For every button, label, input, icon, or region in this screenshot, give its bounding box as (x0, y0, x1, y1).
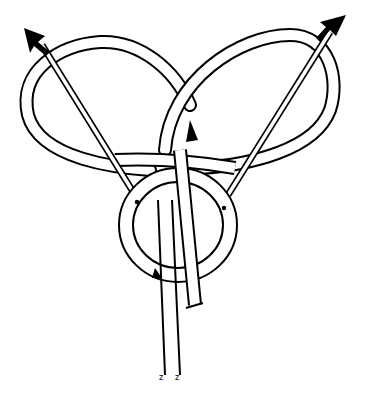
arrow-up-right-icon (316, 15, 346, 42)
svg-text:z: z (175, 373, 179, 382)
standing-parts: z z (158, 200, 180, 382)
svg-text:z: z (159, 373, 163, 382)
knot-drawing: z z (0, 0, 365, 402)
knot-diagram: z z (0, 0, 365, 402)
arrow-up-left-icon (24, 28, 50, 56)
left-pull-line (24, 28, 135, 195)
